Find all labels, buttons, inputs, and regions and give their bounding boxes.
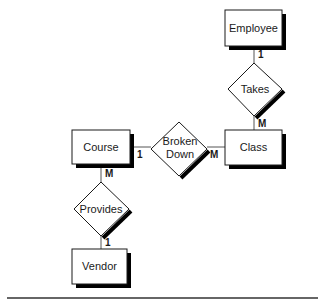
cardinality-course-provides: M (105, 168, 113, 179)
relationship-label-line2: Down (166, 148, 194, 160)
relationship-takes[interactable]: Takes (228, 63, 284, 118)
cardinality-provides-vendor: 1 (105, 237, 111, 248)
entity-course[interactable]: Course (72, 130, 134, 168)
entity-class[interactable]: Class (225, 130, 286, 169)
entity-label: Employee (229, 22, 278, 34)
er-diagram: Employee Takes 1 M Class Course Broken D… (0, 0, 318, 307)
cardinality-takes-class: M (258, 118, 266, 129)
relationship-broken-down[interactable]: Broken Down (151, 122, 209, 178)
relationship-provides[interactable]: Provides (74, 182, 131, 238)
relationship-label: Takes (241, 83, 270, 95)
relationship-label-line1: Broken (163, 135, 198, 147)
entity-vendor[interactable]: Vendor (72, 249, 131, 288)
entity-label: Class (240, 141, 268, 153)
entity-employee[interactable]: Employee (225, 10, 286, 50)
entity-label: Course (83, 141, 118, 153)
entity-label: Vendor (82, 260, 117, 272)
relationship-label: Provides (80, 203, 123, 215)
cardinality-employee-takes: 1 (258, 49, 264, 60)
cardinality-brokendown-class: M (210, 149, 218, 160)
cardinality-course-brokendown: 1 (137, 149, 143, 160)
